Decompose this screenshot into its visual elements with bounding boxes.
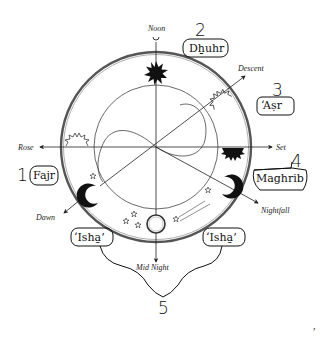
prayer-maghrib: Maghrib bbox=[256, 173, 304, 184]
label-descent: Descent bbox=[238, 64, 264, 73]
shooting-star-trail bbox=[179, 201, 210, 221]
noon-sun-icon bbox=[144, 61, 168, 85]
noon-crescent-icon bbox=[153, 37, 159, 40]
label-mid-night: Mid Night bbox=[136, 263, 169, 272]
label-dawn: Dawn bbox=[36, 213, 55, 222]
label-noon: Noon bbox=[148, 24, 165, 33]
prayer-isha-left: ‘Isha̱’ bbox=[74, 232, 105, 243]
label-set: Set bbox=[276, 143, 286, 152]
label-rose: Rose bbox=[18, 143, 34, 152]
full-moon-icon bbox=[147, 215, 165, 233]
nightfall-crescent-icon bbox=[222, 174, 243, 198]
nightfall-arrow bbox=[156, 147, 258, 203]
setting-sun-icon bbox=[221, 148, 245, 161]
label-nightfall: Nightfall bbox=[261, 206, 289, 215]
prayer-number-4: 4 bbox=[291, 153, 302, 170]
prayer-fajr: Fajr bbox=[33, 170, 55, 181]
prayer-number-1: 1 bbox=[17, 167, 28, 184]
prayer-isha-right: ‘Isha̱’ bbox=[206, 232, 237, 243]
prayer-outlines bbox=[30, 39, 307, 297]
sun-path-curve bbox=[98, 104, 206, 182]
prayer-number-5: 5 bbox=[158, 300, 169, 317]
prayer-dhuhr: Dẖuhr bbox=[189, 43, 224, 54]
dawn-arrow bbox=[64, 200, 80, 213]
prayer-number-3: 3 bbox=[272, 82, 283, 99]
stray-mark: , bbox=[313, 320, 316, 331]
prayer-number-2: 2 bbox=[195, 22, 206, 39]
prayer-times-diagram: Noon Descent Rose Set Dawn Nightfall Mid… bbox=[0, 0, 328, 342]
descent-arrow bbox=[100, 76, 245, 186]
rising-sun-icon bbox=[65, 133, 89, 146]
prayer-asr: ‘Aṣr bbox=[261, 100, 282, 111]
